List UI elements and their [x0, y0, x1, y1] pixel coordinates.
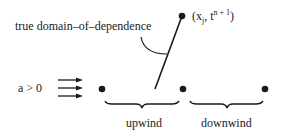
pointer-arc [141, 37, 167, 54]
grid-point-center [180, 86, 187, 93]
characteristic-line [155, 16, 182, 89]
flow-arrows-icon [58, 78, 83, 99]
target-point [179, 13, 186, 20]
velocity-label: a > 0 [18, 82, 42, 94]
point-label-mid: , t [204, 9, 213, 23]
grid-point-right [262, 86, 269, 93]
point-label-close: ) [230, 9, 234, 23]
grid-point-left [99, 86, 106, 93]
target-point-label: (xj, tn + 1) [192, 9, 234, 25]
upwind-label: upwind [126, 117, 162, 129]
point-label-sup: n + 1 [214, 8, 231, 17]
domain-of-dependence-label: true domain–of–dependence [15, 20, 151, 32]
downwind-brace [190, 101, 263, 108]
upwind-brace [105, 101, 179, 108]
point-label-open: (x [192, 9, 202, 23]
downwind-label: downwind [201, 117, 252, 129]
